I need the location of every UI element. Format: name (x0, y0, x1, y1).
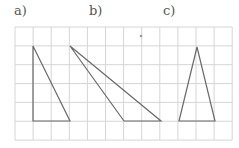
square-grid (15, 27, 232, 140)
grid-diagram (0, 0, 239, 148)
stray-dot (140, 35, 143, 38)
